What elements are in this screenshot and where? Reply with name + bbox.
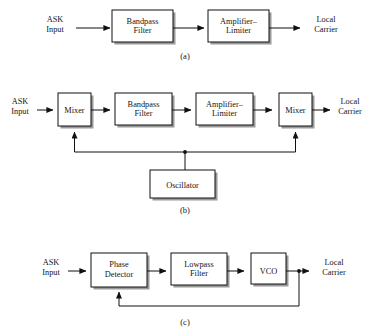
block-b-bandpass-filter-line2: Filter <box>135 109 153 118</box>
block-a-amplifier-limiter-line2: Limiter <box>226 26 251 35</box>
output-label-b-line1: Local <box>341 97 361 106</box>
input-label-a-line1: ASK <box>47 15 64 24</box>
block-c-phase-detector-line2: Detector <box>105 270 134 279</box>
input-label-c: ASK Input <box>42 258 60 277</box>
block-b-mixer-input-label: Mixer <box>64 106 85 115</box>
block-b-bandpass-filter-line1: Bandpass <box>128 100 160 109</box>
block-b-oscillator: Oscillator <box>150 170 218 201</box>
diagram-c: ASK Input Phase Detector Lowpass Filter <box>42 253 346 327</box>
output-label-c: Local Carrier <box>322 258 346 277</box>
block-b-mixer-input: Mixer <box>58 93 94 129</box>
block-c-phase-detector-line1: Phase <box>109 260 129 269</box>
input-label-b-line2: Input <box>11 107 29 116</box>
output-label-c-line1: Local <box>325 258 345 267</box>
block-a-bandpass-filter-line2: Filter <box>134 26 152 35</box>
diagram-a: ASK Input Bandpass Filter Amplifier– Lim… <box>46 10 338 61</box>
input-label-a: ASK Input <box>46 15 64 34</box>
caption-b: (b) <box>180 205 190 215</box>
input-label-c-line2: Input <box>42 268 60 277</box>
block-c-lowpass-filter-line2: Filter <box>190 269 208 278</box>
output-label-a-line1: Local <box>317 15 337 24</box>
block-c-lowpass-filter-line1: Lowpass <box>184 260 214 269</box>
block-a-amplifier-limiter: Amplifier– Limiter <box>208 10 272 45</box>
input-label-c-line1: ASK <box>43 258 60 267</box>
junction-dot-oscillator <box>183 150 187 154</box>
caption-a: (a) <box>180 51 190 61</box>
block-b-mixer-output: Mixer <box>279 93 315 129</box>
block-a-bandpass-filter-line1: Bandpass <box>127 17 159 26</box>
output-label-b-line2: Carrier <box>338 107 362 116</box>
block-c-phase-detector: Phase Detector <box>91 253 150 290</box>
block-b-amplifier-limiter-line1: Amplifier– <box>206 100 244 109</box>
output-label-c-line2: Carrier <box>322 268 346 277</box>
diagram-b: ASK Input Mixer Bandpass Filter Amplif <box>11 93 362 215</box>
block-diagram-figure: ASK Input Bandpass Filter Amplifier– Lim… <box>0 0 370 332</box>
input-label-b-line1: ASK <box>12 97 29 106</box>
block-b-oscillator-label: Oscillator <box>166 181 199 190</box>
input-label-a-line2: Input <box>46 25 64 34</box>
output-label-a-line2: Carrier <box>314 25 338 34</box>
block-b-amplifier-limiter: Amplifier– Limiter <box>196 93 256 128</box>
figure-root: ASK Input Bandpass Filter Amplifier– Lim… <box>0 0 370 332</box>
output-label-a: Local Carrier <box>314 15 338 34</box>
block-b-amplifier-limiter-line2: Limiter <box>212 109 237 118</box>
block-a-bandpass-filter: Bandpass Filter <box>112 10 176 45</box>
block-a-amplifier-limiter-line1: Amplifier– <box>220 17 258 26</box>
output-label-b: Local Carrier <box>338 97 362 116</box>
block-b-bandpass-filter: Bandpass Filter <box>115 93 175 128</box>
input-label-b: ASK Input <box>11 97 29 116</box>
block-c-vco-label: VCO <box>260 267 278 276</box>
caption-c: (c) <box>180 317 190 327</box>
block-c-vco: VCO <box>251 253 289 287</box>
block-c-lowpass-filter: Lowpass Filter <box>171 253 230 288</box>
block-b-mixer-output-label: Mixer <box>285 106 306 115</box>
